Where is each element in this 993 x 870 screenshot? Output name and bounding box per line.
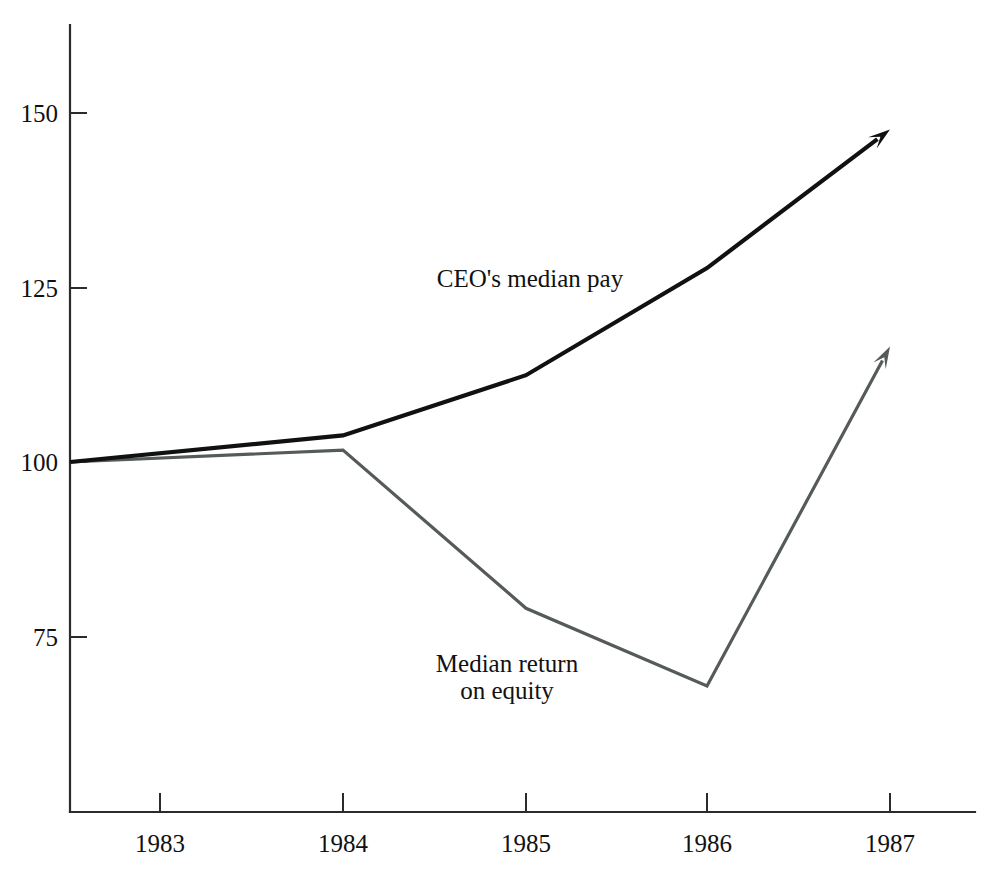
y-tick-label-75: 75 (33, 624, 58, 651)
series-arrowhead-median-return-on-equity (873, 347, 890, 370)
y-tick-label-100: 100 (21, 449, 59, 476)
series-label-median-return-line1: Median return (436, 650, 579, 677)
series-label-ceos-median-pay: CEO's median pay (437, 265, 624, 292)
series-line-ceos-median-pay (70, 139, 877, 462)
series-label-median-return-line2: on equity (460, 677, 554, 704)
x-tick-label-1983: 1983 (135, 830, 185, 857)
x-tick-label-1985: 1985 (501, 830, 551, 857)
chart-page: 150 125 100 75 1983 1984 1985 1986 1987 (0, 0, 993, 870)
x-tick-label-1984: 1984 (318, 830, 369, 857)
line-chart: 150 125 100 75 1983 1984 1985 1986 1987 (0, 0, 993, 870)
series-median-return-on-equity (70, 347, 890, 687)
x-tick-label-1986: 1986 (682, 830, 732, 857)
y-tick-group: 150 125 100 75 (21, 100, 88, 651)
x-tick-label-1987: 1987 (865, 830, 915, 857)
series-line-median-return-on-equity (70, 360, 883, 686)
y-tick-label-150: 150 (21, 100, 59, 127)
series-ceos-median-pay (70, 130, 890, 463)
x-tick-group: 1983 1984 1985 1986 1987 (135, 793, 915, 857)
y-tick-label-125: 125 (21, 275, 59, 302)
